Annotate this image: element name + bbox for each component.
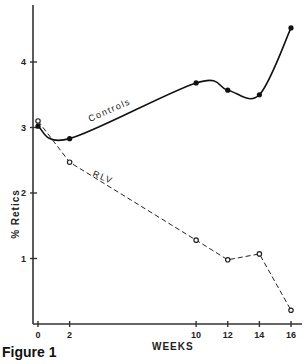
rlv-point — [36, 119, 40, 123]
x-tick-label: 2 — [67, 330, 72, 340]
figure-caption: Figure 1 — [2, 344, 56, 360]
controls-point — [35, 124, 40, 129]
rlv-point — [289, 308, 293, 312]
x-tick-label: 10 — [191, 330, 201, 340]
chart: 1234 0210121416 % Retics WEEKS Controls … — [0, 0, 308, 364]
rlv-point — [194, 238, 198, 242]
y-tick-label: 1 — [21, 254, 26, 264]
controls-point — [225, 88, 230, 93]
rlv-markers — [36, 119, 293, 313]
controls-line — [38, 28, 291, 140]
x-axis-title: WEEKS — [152, 341, 194, 352]
x-tick-label: 12 — [223, 330, 233, 340]
controls-label: Controls — [87, 96, 133, 124]
rlv-line — [38, 121, 291, 310]
controls-markers — [35, 25, 293, 141]
y-tick-label: 2 — [21, 188, 26, 198]
y-ticks: 1234 — [21, 57, 37, 264]
controls-point — [194, 80, 199, 85]
x-tick-label: 0 — [35, 330, 40, 340]
y-tick-label: 3 — [21, 123, 26, 133]
controls-point — [257, 92, 262, 97]
rlv-point — [257, 252, 261, 256]
controls-point — [67, 136, 72, 141]
rlv-point — [226, 258, 230, 262]
controls-point — [288, 25, 293, 30]
rlv-point — [67, 160, 71, 164]
y-axis-title: % Retics — [10, 189, 21, 239]
y-tick-label: 4 — [21, 57, 26, 67]
x-tick-label: 16 — [286, 330, 296, 340]
x-tick-label: 14 — [254, 330, 264, 340]
